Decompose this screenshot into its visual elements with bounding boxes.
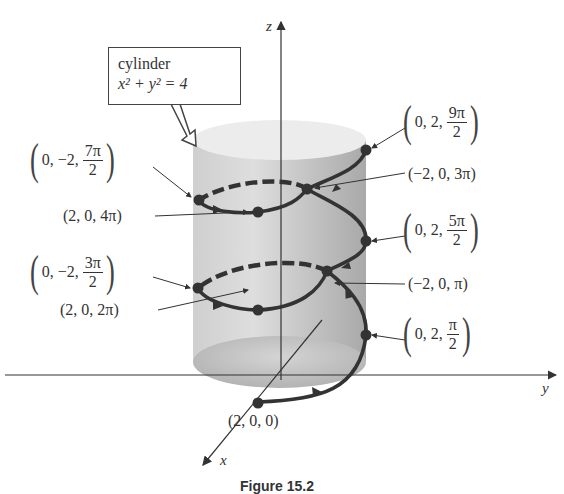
- y-axis-label: y: [542, 380, 549, 397]
- point-label-0-neg2-3pi-over-2: ( 0, −2, 3π2 ): [27, 250, 117, 294]
- point-label-0-neg2-7pi-over-2: ( 0, −2, 7π2 ): [27, 138, 117, 182]
- point-label-2-0-4pi: (2, 0, 4π): [63, 207, 122, 225]
- point-label-0-2-5pi-over-2: ( 0, 2, 5π2 ): [400, 208, 481, 252]
- cylinder-callout: cylinder x² + y² = 4: [108, 47, 241, 105]
- x-axis-label: x: [220, 452, 227, 469]
- point-label-neg2-0-3pi: (−2, 0, 3π): [408, 165, 476, 183]
- callout-equation: x² + y² = 4: [118, 74, 231, 94]
- point-label-0-2-pi-over-2: ( 0, 2, π2 ): [400, 312, 473, 356]
- callout-title: cylinder: [118, 54, 231, 74]
- figure-caption: Figure 15.2: [240, 478, 314, 494]
- point-label-neg2-0-pi: (−2, 0, π): [408, 275, 468, 293]
- point-label-2-0-0: (2, 0, 0): [228, 412, 279, 430]
- cylinder: [193, 120, 366, 388]
- point-label-0-2-9pi-over-2: ( 0, 2, 9π2 ): [400, 100, 481, 144]
- point-label-2-0-2pi: (2, 0, 2π): [60, 301, 119, 319]
- z-axis-label: z: [266, 18, 272, 35]
- callout-pointer: [171, 104, 196, 146]
